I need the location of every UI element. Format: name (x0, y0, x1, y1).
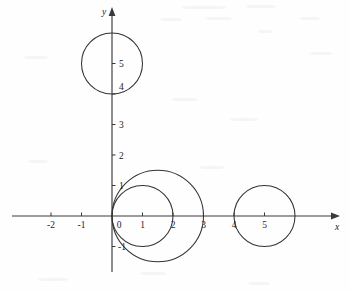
x-tick-label: -1 (78, 220, 86, 230)
y-tick-label: 2 (119, 151, 124, 161)
x-tick-label: 4 (232, 220, 237, 230)
coordinate-plane: -2 -1 0 1 2 3 4 5 5 4 3 2 1 -1 x y (0, 0, 350, 292)
figure-canvas: -2 -1 0 1 2 3 4 5 5 4 3 2 1 -1 x y (0, 0, 350, 292)
y-tick-label: 3 (119, 120, 124, 130)
x-axis-arrowhead (331, 213, 340, 220)
y-tick-label: 1 (119, 181, 124, 191)
y-axis-label: y (101, 7, 107, 17)
y-axis-arrowhead (109, 7, 116, 16)
x-tick-label: 1 (140, 220, 145, 230)
x-tick-label: 3 (201, 220, 206, 230)
x-tick-label: -2 (47, 220, 55, 230)
x-tick-label: 2 (171, 220, 176, 230)
x-axis-label: x (334, 222, 340, 232)
y-tick-label: -1 (118, 242, 126, 252)
origin-label: 0 (117, 220, 122, 230)
y-tick-label: 4 (119, 82, 124, 92)
y-tick-label: 5 (119, 59, 124, 69)
x-tick-label: 5 (262, 220, 267, 230)
